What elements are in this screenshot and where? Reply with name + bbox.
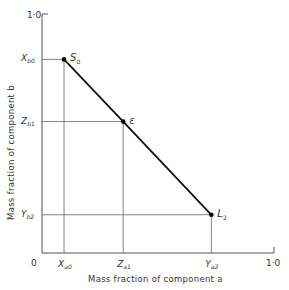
tie-line-path xyxy=(64,59,211,214)
y-tick-label: Xb0 xyxy=(20,53,35,64)
guide-lines xyxy=(42,59,211,253)
point-label-S0: S0 xyxy=(70,52,80,65)
x-max-label: 1·0 xyxy=(266,258,281,268)
origin-label: 0 xyxy=(31,258,37,268)
x-tick-label: Za1 xyxy=(116,259,131,270)
x-axis-title: Mass fraction of component a xyxy=(88,274,223,284)
x-tick-label: Ya2 xyxy=(205,259,218,270)
axes xyxy=(42,14,274,253)
point-S0 xyxy=(62,57,67,62)
x-tick-labels: Xa0Za1Ya2 xyxy=(57,259,218,270)
point-L2 xyxy=(209,212,214,217)
point-label-epsilon: ε xyxy=(129,115,135,126)
y-tick-labels: Xb0Zb1Yb2 xyxy=(20,53,35,219)
x-tick-label: Xa0 xyxy=(57,259,72,270)
y-max-label: 1·0 xyxy=(27,10,42,20)
y-axis-title: Mass fraction of component b xyxy=(6,85,16,220)
y-tick-label: Yb2 xyxy=(21,209,34,220)
y-tick-label: Zb1 xyxy=(20,116,35,127)
point-epsilon xyxy=(121,119,126,124)
tie-line xyxy=(64,59,211,214)
point-label-L2: L2 xyxy=(217,208,227,221)
ternary-mass-fraction-diagram: S0εL2 0 1·0 1·0 Mass fraction of compone… xyxy=(0,0,289,290)
data-points: S0εL2 xyxy=(62,52,227,220)
